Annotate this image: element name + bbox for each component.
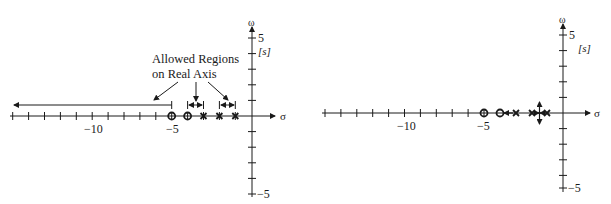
allowed-region-middle [188,101,204,109]
y-tick-label-minus5: −5 [257,187,270,201]
right-root-locus-plot: −10 −5 5 −5 [s] σ ω [322,14,600,195]
left-root-locus-plot: Allowed Regions on Real Axis −10 −5 5 −5… [10,17,286,201]
annotation-line1: Allowed Regions [152,52,239,66]
x-tick-label-minus10: −10 [84,122,103,136]
real-axis-label: σ [280,110,286,122]
annotation-pointers [154,82,228,101]
y-tick-label-minus5: −5 [568,181,581,195]
plane-label: [s] [578,42,591,54]
imag-axis-label: ω [559,14,566,25]
x-tick-label-minus5: −5 [477,119,490,133]
y-tick-label-plus5: 5 [258,31,264,45]
plane-label: [s] [258,45,271,57]
imag-axis-label: ω [248,17,255,28]
annotation-line2: on Real Axis [152,67,217,81]
x-tick-label-minus10: −10 [397,119,416,133]
y-tick-label-plus5: 5 [569,28,575,42]
real-axis-label: σ [594,107,600,119]
x-tick-label-minus5: −5 [166,122,179,136]
allowed-region-right [219,101,235,109]
